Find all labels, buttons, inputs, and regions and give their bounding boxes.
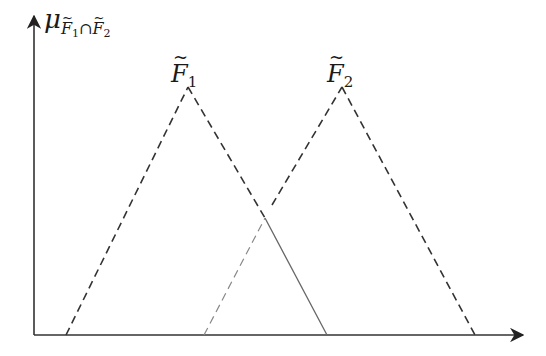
set-label-f2: F2 — [327, 62, 353, 90]
subscript-set-b: F — [92, 21, 103, 37]
y-axis-label: μF1∩F2 — [44, 6, 111, 39]
set-f1-index: 1 — [188, 73, 198, 91]
f2-left-edge-upper — [272, 87, 342, 205]
fuzzy-intersection-diagram — [0, 0, 546, 356]
subscript-set-a-index: 1 — [72, 27, 79, 40]
subscript-set-a: F — [61, 21, 72, 37]
f1-right-edge-lower-solid — [265, 218, 327, 335]
set-f2-name: F — [327, 62, 344, 86]
intersection-operator: ∩ — [79, 19, 92, 38]
f2-right-edge — [342, 87, 475, 335]
set-label-f1: F1 — [171, 62, 197, 90]
subscript-set-b-index: 2 — [104, 27, 111, 40]
f1-right-edge-upper — [188, 87, 265, 218]
set-f1-name: F — [171, 62, 188, 86]
f1-left-edge — [66, 87, 188, 335]
mu-symbol: μ — [44, 4, 61, 34]
set-f2-index: 2 — [344, 73, 354, 91]
f2-left-edge-lower — [204, 218, 265, 335]
